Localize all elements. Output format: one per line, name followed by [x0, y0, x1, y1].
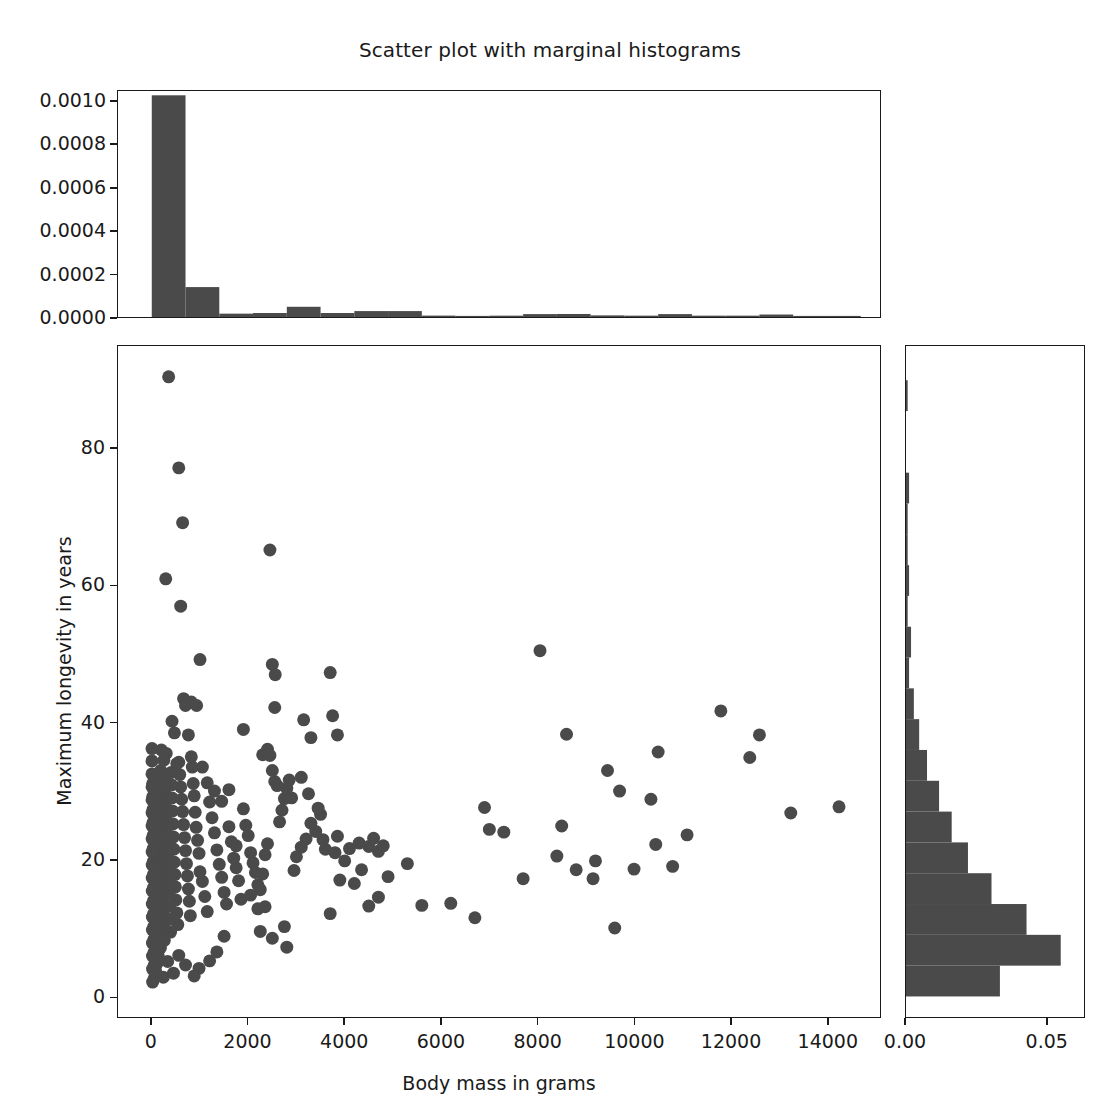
top-histogram-y-tick-label: 0.0006 — [14, 176, 106, 198]
scatter-x-tick — [440, 1018, 442, 1025]
top-histogram-y-tick — [110, 274, 117, 276]
y-axis-title: Maximum longevity in years — [53, 501, 75, 841]
top-histogram-y-tick-label: 0.0004 — [14, 219, 106, 241]
scatter-y-tick-label: 0 — [45, 985, 105, 1007]
scatter-y-tick — [110, 997, 117, 999]
right-histogram-x-tick — [904, 1018, 906, 1025]
right-histogram-plot-area — [906, 346, 1084, 1017]
scatter-y-tick — [110, 447, 117, 449]
right-histogram-x-tick — [1046, 1018, 1048, 1025]
top-histogram-bars — [118, 91, 880, 317]
top-marginal-histogram-panel — [117, 90, 881, 318]
scatter-x-tick — [150, 1018, 152, 1025]
top-histogram-y-tick — [110, 317, 117, 319]
top-histogram-y-tick — [110, 100, 117, 102]
scatter-x-tick — [343, 1018, 345, 1025]
scatter-y-tick — [110, 859, 117, 861]
scatter-x-tick — [634, 1018, 636, 1025]
right-histogram-bars — [906, 346, 1084, 1017]
chart-title: Scatter plot with marginal histograms — [0, 38, 1100, 62]
top-histogram-y-tick — [110, 187, 117, 189]
scatter-x-tick — [827, 1018, 829, 1025]
scatter-x-tick — [247, 1018, 249, 1025]
right-marginal-histogram-panel — [905, 345, 1085, 1018]
scatter-plot-panel — [117, 345, 881, 1018]
scatter-x-tick — [537, 1018, 539, 1025]
scatter-y-tick — [110, 722, 117, 724]
right-histogram-x-tick-label: 0.05 — [997, 1030, 1097, 1052]
scatter-points — [118, 346, 880, 1017]
scatter-x-tick — [730, 1018, 732, 1025]
scatter-y-tick — [110, 585, 117, 587]
right-histogram-x-tick-label: 0.00 — [855, 1030, 955, 1052]
chart-figure: Scatter plot with marginal histograms 0.… — [0, 0, 1100, 1114]
scatter-y-tick-label: 20 — [45, 848, 105, 870]
scatter-y-tick-label: 80 — [45, 436, 105, 458]
x-axis-title: Body mass in grams — [117, 1072, 881, 1094]
scatter-plot-area — [118, 346, 880, 1017]
top-histogram-y-tick — [110, 143, 117, 145]
top-histogram-y-tick-label: 0.0010 — [14, 89, 106, 111]
top-histogram-y-tick-label: 0.0000 — [14, 306, 106, 328]
top-histogram-plot-area — [118, 91, 880, 317]
top-histogram-y-tick — [110, 230, 117, 232]
top-histogram-y-tick-label: 0.0002 — [14, 263, 106, 285]
top-histogram-y-tick-label: 0.0008 — [14, 132, 106, 154]
